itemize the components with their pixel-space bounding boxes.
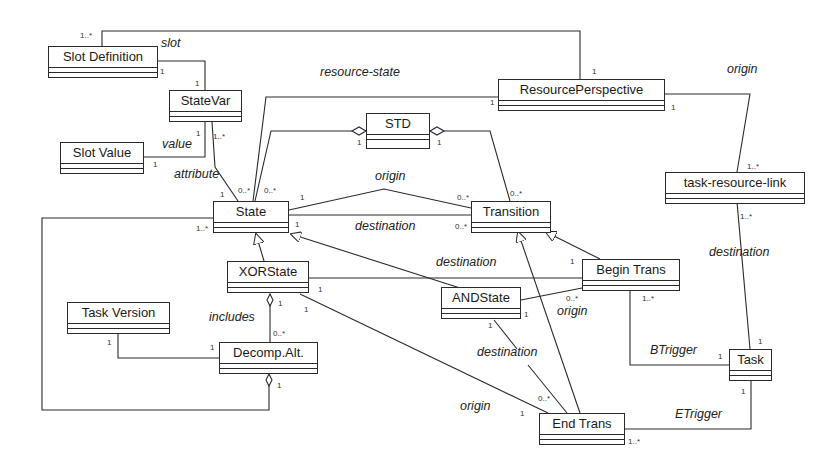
assoc-label-destination-and-end: destination bbox=[477, 345, 537, 359]
assoc-label-origin-rp: origin bbox=[727, 62, 758, 76]
multiplicity: 1 bbox=[671, 103, 675, 112]
gen-begintrans-transition bbox=[546, 232, 600, 259]
multiplicity: 1 bbox=[300, 193, 304, 202]
line-trl-task-destination bbox=[737, 202, 750, 349]
multiplicity: 1 bbox=[718, 352, 722, 361]
multiplicity: 1 bbox=[490, 98, 494, 107]
multiplicity: 1 bbox=[758, 337, 762, 346]
assoc-label-resource-state: resource-state bbox=[320, 65, 400, 79]
gen-xorstate-state bbox=[256, 234, 264, 261]
multiplicity: 1 bbox=[153, 160, 157, 169]
line-std-transition bbox=[430, 131, 510, 201]
multiplicity: 1 bbox=[318, 285, 322, 294]
assoc-label-origin-xor-end: origin bbox=[460, 399, 491, 413]
multiplicity: 0..* bbox=[457, 193, 469, 202]
assoc-label-btrigger: BTrigger bbox=[650, 343, 697, 357]
multiplicity: 1 bbox=[295, 220, 299, 229]
class-name: XORState bbox=[228, 262, 308, 283]
assoc-label-destination-xor-begin: destination bbox=[436, 255, 496, 269]
class-begin-trans: Begin Trans bbox=[582, 259, 680, 291]
class-name: ANDState bbox=[442, 288, 520, 309]
assoc-label-origin-state-transition: origin bbox=[375, 169, 406, 183]
multiplicity: 0..* bbox=[566, 294, 578, 303]
multiplicity: 1..* bbox=[747, 162, 759, 171]
multiplicity: 0..* bbox=[455, 222, 467, 231]
multiplicity: 1 bbox=[278, 299, 282, 308]
class-slot-definition: Slot Definition bbox=[48, 46, 158, 78]
class-name: Decomp.Alt. bbox=[220, 343, 317, 364]
multiplicity: 1..* bbox=[740, 212, 752, 221]
assoc-label-value: value bbox=[162, 137, 192, 151]
assoc-label-etrigger: ETrigger bbox=[675, 407, 722, 421]
class-slot-value: Slot Value bbox=[60, 142, 144, 174]
multiplicity: 1 bbox=[277, 381, 281, 390]
multiplicity: 1..* bbox=[80, 31, 92, 40]
xor-diamond bbox=[267, 294, 273, 306]
class-transition: Transition bbox=[471, 201, 551, 233]
multiplicity: 1..* bbox=[213, 132, 225, 141]
multiplicity: 1 bbox=[520, 409, 524, 418]
multiplicity: 1 bbox=[488, 321, 492, 330]
multiplicity: 0..* bbox=[510, 189, 522, 198]
class-name: End Trans bbox=[540, 414, 624, 435]
multiplicity: 1 bbox=[437, 138, 441, 147]
class-name: State bbox=[214, 202, 288, 223]
multiplicity: 1..* bbox=[196, 224, 208, 233]
class-state: State bbox=[213, 201, 289, 233]
class-name: STD bbox=[367, 114, 429, 135]
std-diamond-right bbox=[430, 127, 444, 135]
class-name: Task bbox=[730, 350, 771, 371]
multiplicity: 0..* bbox=[264, 186, 276, 195]
class-name: StateVar bbox=[170, 91, 241, 112]
multiplicity: 1 bbox=[196, 129, 200, 138]
class-name: Task Version bbox=[68, 303, 169, 324]
class-statevar: StateVar bbox=[169, 90, 242, 122]
assoc-label-destination-state-transition: destination bbox=[355, 219, 415, 233]
gen-andstate-state bbox=[291, 234, 460, 288]
assoc-label-includes: includes bbox=[209, 310, 255, 324]
multiplicity: 1 bbox=[524, 310, 528, 319]
class-name: task-resource-link bbox=[666, 173, 804, 194]
line-rp-trl-origin bbox=[665, 94, 750, 172]
class-end-trans: End Trans bbox=[539, 413, 625, 445]
class-task: Task bbox=[729, 349, 772, 381]
class-task-version: Task Version bbox=[67, 302, 170, 334]
assoc-label-slot: slot bbox=[161, 36, 180, 50]
class-name: Begin Trans bbox=[583, 260, 679, 281]
assoc-label-destination-trl-task: destination bbox=[709, 245, 769, 259]
multiplicity: 1 bbox=[570, 257, 574, 266]
multiplicity: 0..* bbox=[538, 394, 550, 403]
multiplicity: 1 bbox=[220, 190, 224, 199]
class-name: Transition bbox=[472, 202, 550, 223]
multiplicity: 1..* bbox=[628, 437, 640, 446]
assoc-label-attribute: attribute bbox=[174, 167, 219, 181]
class-andstate: ANDState bbox=[441, 287, 521, 319]
multiplicity: 0..* bbox=[238, 186, 250, 195]
multiplicity: 1 bbox=[210, 343, 214, 352]
decomp-diamond bbox=[266, 374, 272, 386]
multiplicity: 1 bbox=[304, 305, 308, 314]
class-xorstate: XORState bbox=[227, 261, 309, 293]
multiplicity: 1 bbox=[195, 79, 199, 88]
line-origin-state-transition bbox=[289, 189, 471, 210]
class-name: Slot Value bbox=[61, 143, 143, 164]
std-diamond-left bbox=[352, 127, 366, 135]
multiplicity: 1 bbox=[592, 67, 596, 76]
multiplicity: 1 bbox=[160, 67, 164, 76]
class-resource-perspective: ResourcePerspective bbox=[498, 79, 665, 111]
multiplicity: 1 bbox=[357, 138, 361, 147]
class-std: STD bbox=[366, 113, 430, 149]
class-task-resource-link: task-resource-link bbox=[665, 172, 805, 204]
class-decomp-alt: Decomp.Alt. bbox=[219, 342, 318, 374]
line-taskversion-decomp bbox=[118, 333, 219, 358]
class-name: Slot Definition bbox=[49, 47, 157, 68]
multiplicity: 1..* bbox=[642, 294, 654, 303]
multiplicity: 0..* bbox=[273, 329, 285, 338]
class-name: ResourcePerspective bbox=[499, 80, 664, 101]
assoc-label-origin-and-begin: origin bbox=[557, 304, 588, 318]
multiplicity: 1 bbox=[107, 338, 111, 347]
multiplicity: 1 bbox=[741, 387, 745, 396]
line-etrigger bbox=[625, 381, 751, 429]
